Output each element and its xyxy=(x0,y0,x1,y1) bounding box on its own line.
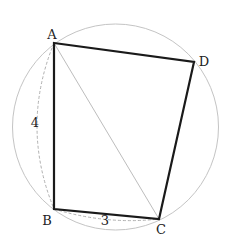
circumscribed-circle xyxy=(13,24,219,230)
length-label-ab: 4 xyxy=(31,115,39,130)
vertex-label-a: A xyxy=(46,27,57,42)
length-label-bc: 3 xyxy=(101,213,109,228)
quadrilateral-abcd xyxy=(54,43,194,219)
diagram-canvas: A B C D 4 3 xyxy=(0,0,230,244)
dashed-arc-ab xyxy=(37,43,54,209)
vertex-label-b: B xyxy=(42,213,52,228)
vertex-label-d: D xyxy=(199,54,209,69)
diagonal-ac xyxy=(54,43,159,219)
vertex-label-c: C xyxy=(156,222,166,237)
cyclic-quadrilateral-diagram: A B C D 4 3 xyxy=(0,0,230,244)
